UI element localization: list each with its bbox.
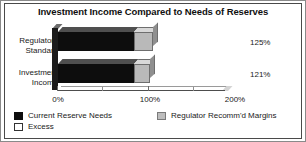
- bar-side-face-margins-1: [150, 54, 155, 78]
- segment-current-reserve-needs-0: [58, 32, 134, 51]
- chart-legend: Current Reserve Needs Excess Regulator R…: [14, 111, 294, 133]
- category-label-investment-income: Investment Income: [0, 68, 58, 87]
- value-label-investment-income: 121%: [250, 70, 270, 79]
- segment-current-reserve-needs-1: [58, 64, 134, 83]
- x-tick-50: [102, 87, 103, 91]
- x-axis-line: [57, 90, 225, 91]
- legend-item-regulator-margins: Regulator Recomm'd Margins: [157, 111, 277, 120]
- chart-container: Investment Income Compared to Needs of R…: [0, 0, 306, 142]
- legend-label-current-reserve-needs: Current Reserve Needs: [28, 111, 112, 120]
- bar-front-0: [58, 32, 153, 51]
- x-tick-label-200: 200%: [225, 95, 245, 104]
- bar-side-face-margins-0: [153, 22, 158, 46]
- legend-label-regulator-margins: Regulator Recomm'd Margins: [171, 111, 277, 120]
- segment-regulator-margins-1: [134, 64, 150, 83]
- category-label-regulatory-standard: Regulatory Standard: [0, 36, 58, 55]
- legend-swatch-black-icon: [14, 112, 23, 120]
- legend-item-current-reserve-needs: Current Reserve Needs: [14, 111, 112, 120]
- segment-regulator-margins-0: [134, 32, 153, 51]
- x-tick-100: [148, 86, 149, 91]
- legend-swatch-gray-icon: [157, 112, 166, 120]
- x-tick-0: [57, 86, 58, 91]
- x-axis-top-edge: [61, 86, 229, 87]
- x-tick-label-100: 100%: [140, 95, 160, 104]
- bar-front-1: [58, 64, 150, 83]
- value-label-regulatory-standard: 125%: [250, 38, 270, 47]
- legend-swatch-white-icon: [14, 123, 23, 131]
- legend-item-excess: Excess: [14, 122, 54, 131]
- legend-label-excess: Excess: [28, 122, 54, 131]
- x-tick-150: [193, 87, 194, 91]
- x-tick-label-0: 0%: [52, 95, 64, 104]
